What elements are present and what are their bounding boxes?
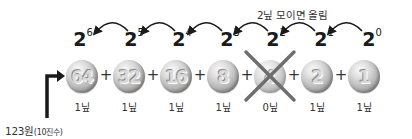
coin-count-label: 1닢 [216,99,231,114]
coin-count-label: 1닢 [122,99,137,114]
input-amount-label: 123원(10진수) [5,123,62,138]
coin-count-label: 0닢 [263,99,278,114]
input-note: (10진수) [34,128,63,137]
cross-out-icon [0,0,412,139]
coin-count-label: 1닢 [357,99,372,114]
input-amount: 123원 [5,125,34,137]
coin-count-label: 1닢 [169,99,184,114]
coin-count-label: 1닢 [310,99,325,114]
coin-count-label: 1닢 [75,99,90,114]
